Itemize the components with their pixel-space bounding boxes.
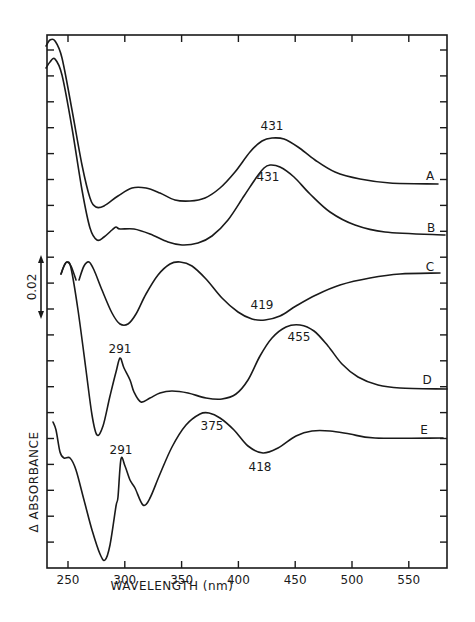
curve-a <box>46 39 438 208</box>
curve-label-b: B <box>427 221 435 235</box>
y-axis-ticks <box>47 50 447 542</box>
peak-label: 419 <box>251 298 274 312</box>
x-tick-label: 250 <box>57 573 80 587</box>
curve-annotations: ABCDE431431419291455291375418 <box>109 119 436 474</box>
curve-e <box>53 412 443 560</box>
arrow-down-icon <box>38 311 44 319</box>
curve-label-e: E <box>420 423 428 437</box>
peak-label: 375 <box>201 419 224 433</box>
curve-b <box>46 58 445 245</box>
curve-label-c: C <box>426 260 434 274</box>
peak-label: 431 <box>257 170 280 184</box>
peak-label: 291 <box>110 443 133 457</box>
spectra-chart: 250300350400450500550 ABCDE4314314192914… <box>0 0 475 622</box>
x-tick-label: 550 <box>397 573 420 587</box>
peak-label: 418 <box>249 460 272 474</box>
curve-label-a: A <box>426 169 435 183</box>
scale-bar-label: 0.02 <box>25 274 39 301</box>
peak-label: 455 <box>288 330 311 344</box>
arrow-up-icon <box>38 255 44 263</box>
y-axis-title: Δ ABSORBANCE <box>27 431 41 532</box>
peak-label: 431 <box>261 119 284 133</box>
scale-bar: 0.02 <box>25 255 44 319</box>
curve-c <box>61 262 76 280</box>
x-axis-title: WAVELENGTH (nm) <box>111 579 234 593</box>
x-tick-label: 450 <box>284 573 307 587</box>
peak-label: 291 <box>109 342 132 356</box>
x-tick-label: 500 <box>341 573 364 587</box>
curve-label-d: D <box>422 373 431 387</box>
curve-c <box>79 262 440 325</box>
spectrum-curves <box>46 39 447 560</box>
